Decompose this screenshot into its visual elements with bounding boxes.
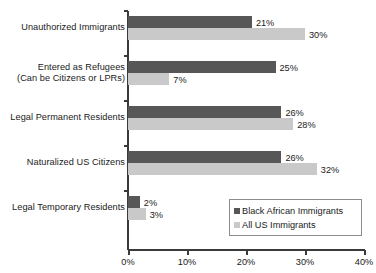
- category-label: Unauthorized Immigrants: [3, 22, 125, 34]
- bar-value-label: 28%: [297, 120, 315, 130]
- bar-value-label: 25%: [280, 63, 298, 73]
- category-label: Legal Permanent Residents: [3, 112, 125, 124]
- x-axis-tick-label: 10%: [167, 257, 207, 267]
- x-axis-tick-label: 40%: [344, 257, 376, 267]
- bar-all-us-immigrants: [128, 118, 293, 130]
- x-axis-tick-label: 30%: [285, 257, 325, 267]
- bar-value-label: 30%: [309, 30, 327, 40]
- category-label: Legal Temporary Residents: [3, 202, 125, 214]
- bar-black-african-immigrants: [128, 16, 252, 28]
- y-axis-tick: [124, 190, 128, 192]
- legend-item-black-african-immigrants: Black African Immigrants: [234, 204, 361, 218]
- bar-value-label: 7%: [173, 75, 186, 85]
- legend-label: All US Immigrants: [242, 220, 316, 230]
- x-axis-tick-label: 20%: [226, 257, 266, 267]
- bar-value-label: 32%: [321, 165, 339, 175]
- bar-black-african-immigrants: [128, 106, 281, 118]
- y-axis-tick: [124, 10, 128, 12]
- bar-all-us-immigrants: [128, 208, 146, 220]
- x-axis-tick: [246, 250, 248, 255]
- category-label: Naturalized US Citizens: [3, 157, 125, 169]
- bar-black-african-immigrants: [128, 196, 140, 208]
- category-label-line: Legal Permanent Residents: [3, 112, 125, 124]
- x-axis-tick: [187, 250, 189, 255]
- bar-all-us-immigrants: [128, 73, 169, 85]
- bar-black-african-immigrants: [128, 61, 276, 73]
- x-axis-tick: [128, 250, 130, 255]
- bar-value-label: 26%: [285, 153, 303, 163]
- legend-label: Black African Immigrants: [242, 206, 343, 216]
- category-label-line: (Can be Citizens or LPRs): [3, 73, 125, 85]
- x-axis-tick: [364, 250, 366, 255]
- legend-swatch-icon: [234, 222, 240, 228]
- chart-legend: Black African Immigrants All US Immigran…: [229, 199, 362, 236]
- category-label-line: Legal Temporary Residents: [3, 202, 125, 214]
- bar-value-label: 21%: [256, 18, 274, 28]
- y-axis-tick: [124, 145, 128, 147]
- bar-value-label: 3%: [150, 210, 163, 220]
- legend-item-all-us-immigrants: All US Immigrants: [234, 218, 361, 232]
- y-axis-tick: [124, 100, 128, 102]
- x-axis-tick: [305, 250, 307, 255]
- bar-value-label: 2%: [144, 198, 157, 208]
- category-label-line: Naturalized US Citizens: [3, 157, 125, 169]
- category-label: Entered as Refugees(Can be Citizens or L…: [3, 62, 125, 85]
- x-axis-tick-label: 0%: [108, 257, 148, 267]
- category-label-line: Unauthorized Immigrants: [3, 22, 125, 34]
- y-axis-tick: [124, 55, 128, 57]
- bar-all-us-immigrants: [128, 28, 305, 40]
- legend-swatch-icon: [234, 208, 240, 214]
- bar-all-us-immigrants: [128, 163, 317, 175]
- bar-value-label: 26%: [285, 108, 303, 118]
- bar-black-african-immigrants: [128, 151, 281, 163]
- bar-chart: 21%30%25%7%26%28%26%32%2%3% Unauthorized…: [0, 0, 376, 273]
- category-label-line: Entered as Refugees: [3, 62, 125, 74]
